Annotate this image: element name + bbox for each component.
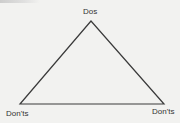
- label-dos: Dos: [83, 7, 97, 16]
- triangle-shape: [20, 21, 164, 104]
- label-donts-right: Don'ts: [152, 107, 174, 116]
- triangle-diagram: [0, 0, 180, 123]
- label-donts-left: Don'ts: [6, 109, 28, 118]
